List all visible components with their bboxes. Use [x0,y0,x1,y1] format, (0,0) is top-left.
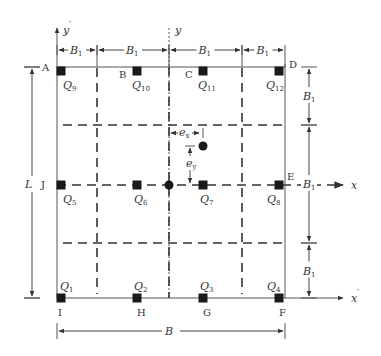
pile-group-diagram: y′yxx′B1B1B1B1B1B1B1LBexeyQ1Q2Q3Q4Q5Q6Q7… [0,0,381,356]
pile-q7-label: Q7 [200,193,214,207]
point-label-j: J [40,179,45,190]
point-label-b: B [119,69,126,80]
pile-q9-marker [57,67,66,76]
pile-q1-marker [57,294,66,303]
pile-q6-label: Q6 [134,193,148,207]
point-label-g: G [203,307,211,318]
point-label-f: F [279,307,286,318]
axis-label-x: x [351,179,358,192]
pile-q5-marker [57,181,66,190]
pile-q11-marker [199,67,208,76]
dimension-label-l: L [24,178,32,191]
dimension-label-b: B [164,325,173,338]
pile-q3-label: Q3 [200,280,214,294]
pile-q3-marker [199,294,208,303]
point-label-d: D [289,59,297,70]
point-label-h: H [137,307,146,318]
pile-q4-marker [275,294,284,303]
pile-q12-label: Q12 [266,79,284,93]
pile-q9-label: Q9 [63,79,77,93]
load-point-marker [199,142,208,151]
pile-q5-label: Q5 [63,193,77,207]
prime-mark: ′ [357,287,360,298]
point-label-e: E [287,171,294,182]
pile-q8-label: Q8 [267,193,281,207]
pile-group-centroid-marker [165,181,174,190]
point-label-i: I [58,307,62,318]
pile-q8-marker [275,181,284,190]
pile-q2-label: Q2 [134,280,148,294]
prime-mark: ′ [69,19,72,30]
pile-q1-label: Q1 [60,280,74,294]
point-label-c: C [185,69,193,80]
pile-q10-marker [133,67,142,76]
point-label-a: A [41,62,50,73]
pile-q12-marker [275,67,284,76]
pile-q7-marker [199,181,208,190]
pile-q6-marker [133,181,142,190]
pile-q10-label: Q10 [132,79,150,93]
pile-q2-marker [133,294,142,303]
axis-label-y: y [174,24,182,37]
pile-q11-label: Q11 [198,79,216,93]
pile-q4-label: Q4 [267,280,281,294]
